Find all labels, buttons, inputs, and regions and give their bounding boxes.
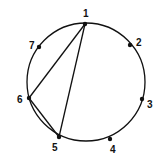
vertex-4-label: 4: [110, 144, 116, 155]
vertex-5-label: 5: [52, 142, 58, 153]
vertices: 1234567: [17, 8, 153, 155]
vertex-3-dot: [140, 97, 144, 101]
chords: [29, 24, 85, 137]
vertex-1-label: 1: [83, 8, 89, 19]
vertex-1-dot: [83, 22, 87, 26]
vertex-7-dot: [37, 45, 41, 49]
vertex-6-dot: [27, 96, 31, 100]
vertex-2-label: 2: [136, 37, 142, 48]
circle-outline: [27, 23, 145, 141]
vertex-4-dot: [108, 137, 112, 141]
vertex-7-label: 7: [29, 40, 35, 51]
vertex-2-dot: [128, 43, 132, 47]
circle-graph-diagram: 1234567: [0, 0, 165, 163]
vertex-6-label: 6: [17, 94, 23, 105]
chord-6-5: [29, 98, 59, 137]
vertex-3-label: 3: [147, 99, 153, 110]
vertex-5-dot: [57, 135, 61, 139]
